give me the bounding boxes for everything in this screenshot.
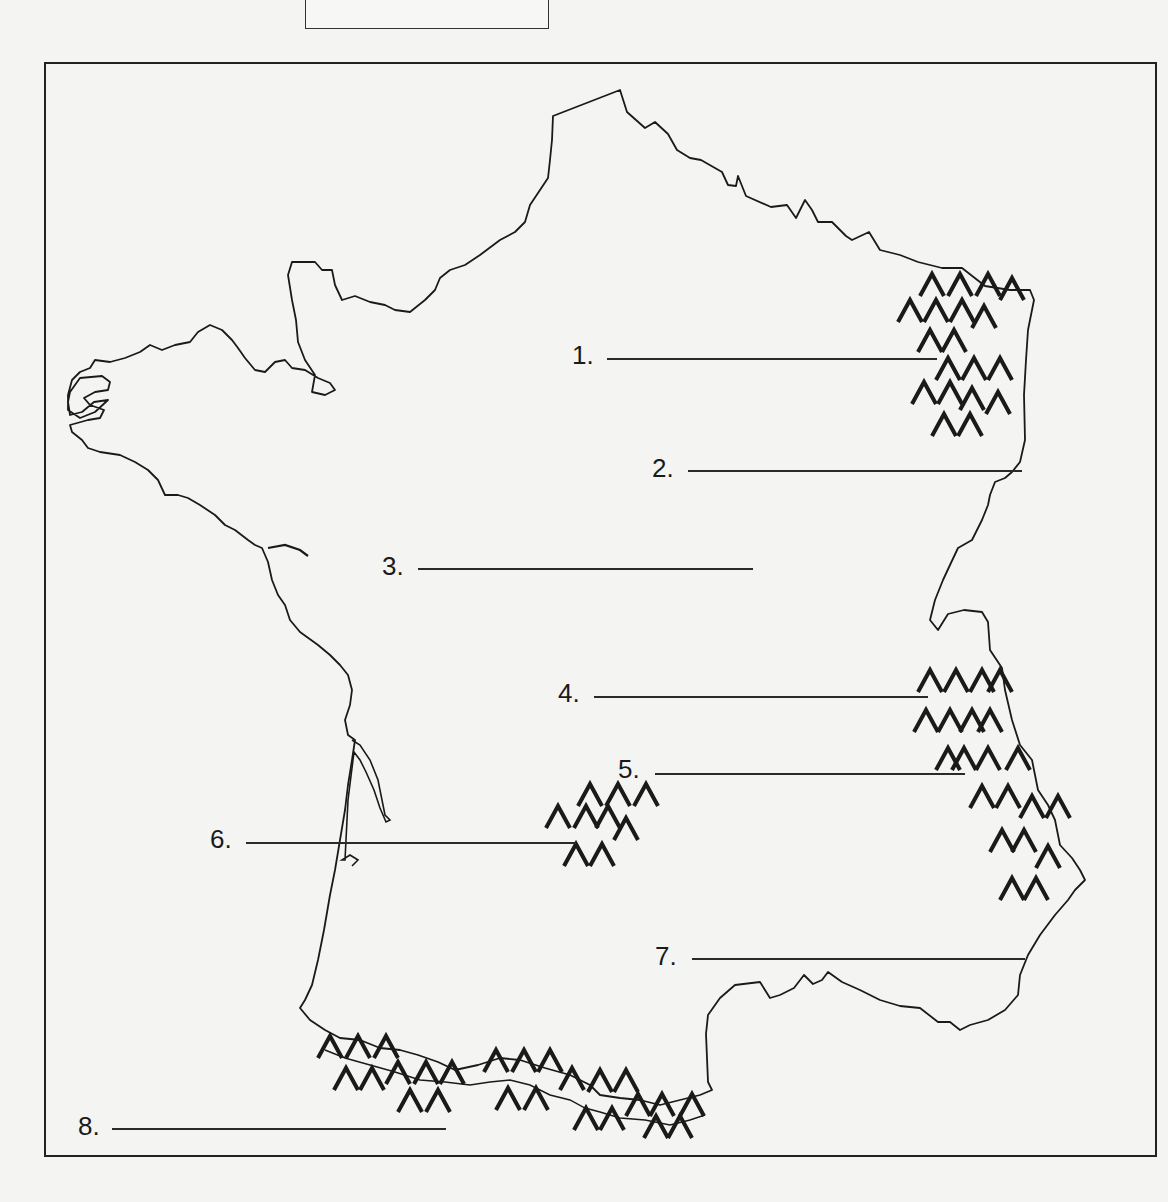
- label-number-7: 7.: [655, 943, 677, 969]
- label-number-3: 3.: [382, 553, 404, 579]
- label-number-2: 2.: [652, 455, 674, 481]
- france-map: [0, 0, 1168, 1202]
- answer-field-7[interactable]: [692, 938, 1025, 960]
- answer-field-4[interactable]: [594, 676, 928, 698]
- answer-field-6[interactable]: [246, 822, 576, 844]
- gironde-estuary: [342, 740, 390, 866]
- answer-field-1[interactable]: [607, 338, 937, 360]
- answer-field-5[interactable]: [655, 753, 965, 775]
- answer-field-3[interactable]: [418, 548, 753, 570]
- label-number-5: 5.: [618, 756, 640, 782]
- label-number-8: 8.: [78, 1113, 100, 1139]
- mountain-cluster-alps: [914, 670, 1070, 900]
- label-number-6: 6.: [210, 826, 232, 852]
- label-number-4: 4.: [558, 680, 580, 706]
- label-number-1: 1.: [572, 342, 594, 368]
- loire-estuary: [268, 545, 308, 556]
- answer-field-8[interactable]: [112, 1108, 446, 1130]
- answer-field-2[interactable]: [688, 450, 1022, 472]
